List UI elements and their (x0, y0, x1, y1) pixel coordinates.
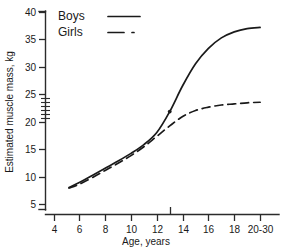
x-axis-title: Age, years (122, 236, 170, 247)
series-line-boys (69, 27, 260, 187)
y-tick-label: 35 (25, 34, 37, 45)
legend-label-girls: Girls (58, 25, 83, 39)
data-series-group (69, 27, 260, 188)
y-axis-title: Estimated muscle mass, kg (4, 51, 15, 173)
x-axis-tick-labels: 468101214161820-30 (52, 224, 274, 235)
y-axis-tick-labels: 510152025303540 (25, 7, 37, 210)
y-tick-label: 40 (25, 7, 37, 18)
y-axis-ticks (39, 13, 46, 205)
series-point-marker (168, 110, 172, 114)
x-tick-label: 12 (152, 224, 164, 235)
y-tick-label: 30 (25, 62, 37, 73)
x-tick-label: 6 (77, 224, 83, 235)
legend-label-boys: Boys (58, 9, 85, 23)
x-tick-label: 16 (203, 224, 215, 235)
y-tick-label: 25 (25, 89, 37, 100)
chart-plot-area: 510152025303540 468101214161820-30 Boys … (0, 0, 289, 251)
x-tick-label: 14 (178, 224, 190, 235)
series-line-girls (69, 102, 260, 188)
y-tick-label: 15 (25, 144, 37, 155)
chart-legend: Boys Girls (58, 9, 140, 39)
x-axis-ticks (55, 215, 261, 222)
y-tick-label: 10 (25, 172, 37, 183)
muscle-mass-chart: 510152025303540 468101214161820-30 Boys … (0, 0, 289, 251)
x-tick-label: 8 (103, 224, 109, 235)
x-tick-label: 18 (229, 224, 241, 235)
x-tick-label: 10 (126, 224, 138, 235)
x-tick-label: 20-30 (248, 224, 274, 235)
x-tick-label: 4 (52, 224, 58, 235)
boys-curve-point-marker (168, 110, 172, 114)
y-tick-label: 20 (25, 117, 37, 128)
y-tick-label: 5 (30, 199, 36, 210)
